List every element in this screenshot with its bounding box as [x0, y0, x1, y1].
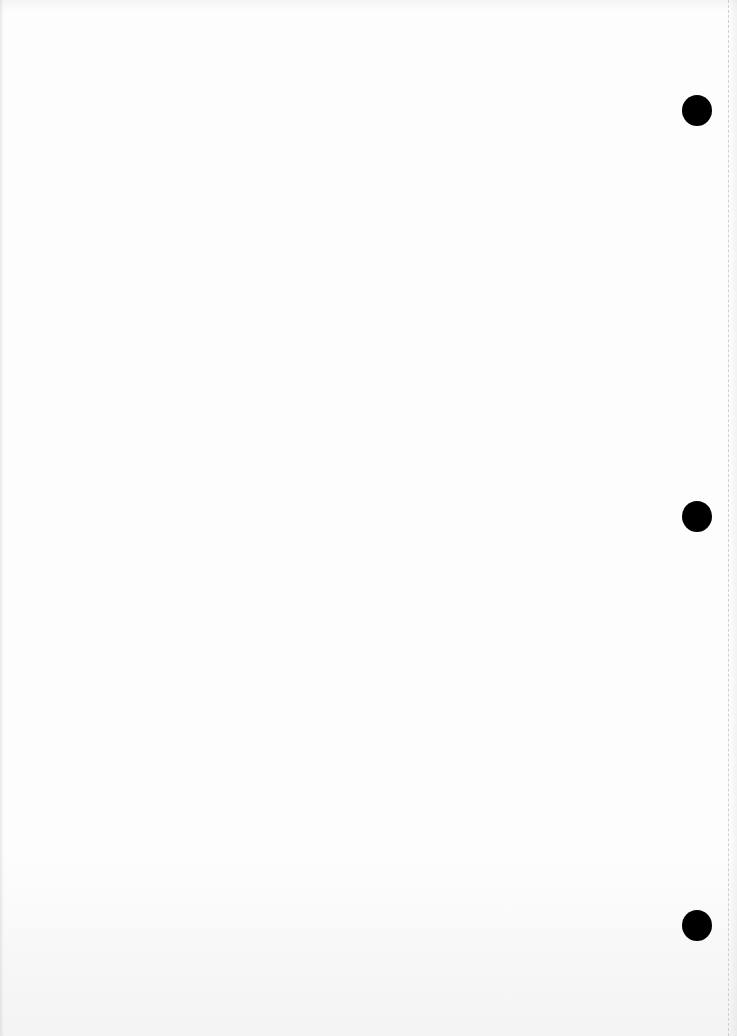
- page-left-edge-shadow: [0, 0, 4, 1036]
- punch-hole-bottom-icon: [682, 910, 712, 941]
- page-right-edge-shadow: [729, 0, 737, 1036]
- punch-hole-middle-icon: [682, 501, 712, 532]
- punch-hole-top-icon: [682, 95, 712, 126]
- scanned-blank-page: [0, 0, 737, 1036]
